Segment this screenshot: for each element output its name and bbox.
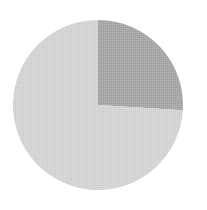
chart-caption [0, 204, 207, 210]
pie-chart [0, 0, 207, 210]
pie-slice-texture [98, 20, 183, 110]
pie-slices [13, 20, 183, 190]
